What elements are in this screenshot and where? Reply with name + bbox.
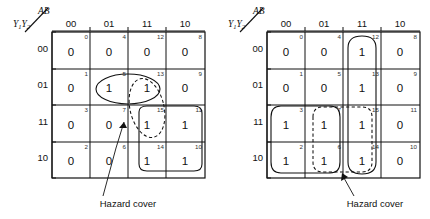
- kmap-cell: 1: [144, 155, 150, 167]
- row-header-3: 10: [37, 152, 48, 163]
- kmap-cell: 1: [321, 155, 327, 167]
- kmap-cell: 1: [359, 119, 365, 131]
- cell-index: 11: [411, 106, 418, 113]
- kmap-cell: 0: [68, 155, 74, 167]
- hazard-cover-arrowhead: [119, 122, 127, 128]
- col-header-2: 11: [357, 18, 367, 29]
- kmap-cell: 0: [397, 155, 403, 167]
- cell-index: 12: [157, 33, 164, 40]
- row-header-1: 01: [252, 79, 263, 90]
- kmap-cell: 1: [321, 119, 327, 131]
- kmap-cell: 1: [182, 119, 188, 131]
- kmap-cell: 0: [397, 46, 403, 58]
- kmap-cell: 0: [321, 46, 327, 58]
- kmap-cell: 0: [182, 82, 188, 94]
- cell-index: 9: [199, 70, 203, 77]
- kmap-cell: 1: [283, 155, 289, 167]
- cell-index: 4: [123, 33, 127, 40]
- karnaugh-map-left: AB Y1Y2 00 01 11 10 00 01 11 10: [0, 0, 215, 219]
- row-header-0: 00: [252, 43, 263, 54]
- cell-index: 8: [199, 33, 203, 40]
- kmap-cell: 0: [68, 46, 74, 58]
- cell-index: 13: [157, 70, 164, 77]
- cell-index: 2: [300, 143, 304, 150]
- kmap-cell: 0: [68, 82, 74, 94]
- cell-index: 15: [157, 106, 164, 113]
- col-header-0: 00: [66, 18, 77, 29]
- kmap-cell: 1: [359, 82, 365, 94]
- cell-index: 2: [85, 143, 89, 150]
- col-header-0: 00: [281, 18, 292, 29]
- col-header-1: 01: [104, 18, 115, 29]
- cell-index: 0: [300, 33, 304, 40]
- row-header-2: 11: [38, 116, 48, 127]
- kmap-cell: 1: [182, 155, 188, 167]
- hazard-cover-caption: Hazard cover: [347, 198, 404, 209]
- kmap-cell: 0: [283, 82, 289, 94]
- row-header-3: 10: [252, 152, 263, 163]
- cell-index: 4: [338, 33, 342, 40]
- col-header-3: 10: [395, 18, 406, 29]
- kmap-cell: 1: [144, 119, 150, 131]
- kmap-cell: 0: [321, 82, 327, 94]
- cell-index: 10: [195, 143, 202, 150]
- kmap-cell: 1: [359, 46, 365, 58]
- cell-index: 1: [300, 70, 304, 77]
- cell-index: 7: [123, 106, 127, 113]
- cell-index: 5: [338, 70, 342, 77]
- column-variable-label: AB: [252, 6, 265, 16]
- row-variable-label: Y1Y2: [228, 19, 246, 30]
- karnaugh-map-right: AB Y1Y2 00 01 11 10 00 01 11 10: [215, 0, 430, 219]
- cell-index: 8: [414, 33, 418, 40]
- kmap-cell: 1: [359, 155, 365, 167]
- kmap-cell: 1: [106, 82, 112, 94]
- col-header-2: 11: [142, 18, 152, 29]
- row-variable-label: Y1Y2: [13, 19, 31, 30]
- karnaugh-map-left-svg: AB Y1Y2 00 01 11 10 00 01 11 10: [0, 0, 215, 219]
- kmap-cell: 0: [106, 119, 112, 131]
- cell-index: 3: [300, 106, 304, 113]
- kmap-cell: 0: [283, 46, 289, 58]
- col-header-3: 10: [180, 18, 191, 29]
- kmap-cell: 0: [144, 46, 150, 58]
- cell-index: 0: [85, 33, 89, 40]
- row-header-2: 11: [253, 116, 263, 127]
- karnaugh-map-right-svg: AB Y1Y2 00 01 11 10 00 01 11 10: [215, 0, 430, 219]
- kmap-cell: 0: [397, 82, 403, 94]
- row-header-1: 01: [37, 79, 48, 90]
- column-variable-label: AB: [37, 6, 50, 16]
- col-header-1: 01: [319, 18, 330, 29]
- cell-index: 10: [410, 143, 417, 150]
- kmap-cell: 0: [106, 46, 112, 58]
- kmap-cell: 0: [397, 119, 403, 131]
- cell-index: 14: [157, 143, 164, 150]
- hazard-cover-leader-line: [344, 178, 354, 196]
- cell-index: 6: [123, 143, 127, 150]
- kmap-cell: 1: [144, 82, 150, 94]
- cell-index: 3: [85, 106, 89, 113]
- hazard-cover-caption: Hazard cover: [100, 198, 157, 209]
- row-header-0: 00: [37, 43, 48, 54]
- kmap-cell: 0: [182, 46, 188, 58]
- cell-index: 1: [85, 70, 89, 77]
- kmap-cell: 1: [283, 119, 289, 131]
- kmap-cell: 0: [68, 119, 74, 131]
- cell-index: 9: [414, 70, 418, 77]
